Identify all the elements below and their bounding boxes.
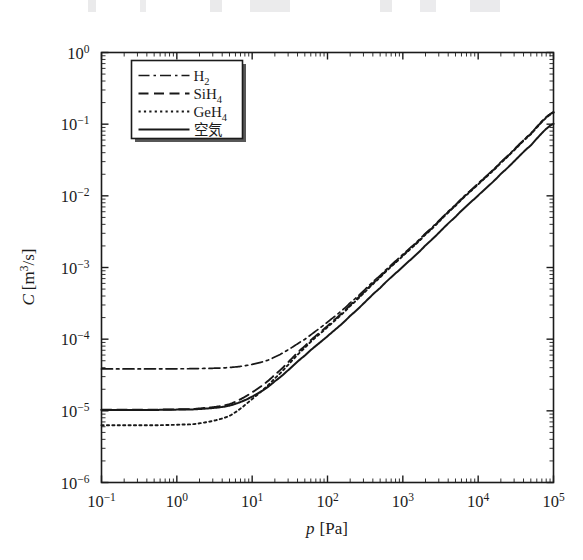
x-axis-title: p[Pa] (305, 519, 348, 538)
tick-label: 105 (542, 491, 565, 511)
tick-label: 10−1 (87, 491, 116, 511)
curve-SiH4 (102, 112, 554, 409)
tick-label: 100 (166, 491, 189, 511)
tick-label: 10−3 (61, 258, 90, 278)
figure-canvas: 10−1100101102103104105 10010−110−210−310… (0, 0, 583, 560)
conductance-vs-pressure-chart: 10−1100101102103104105 10010−110−210−310… (0, 0, 583, 560)
tick-label: 10−1 (61, 114, 90, 134)
tick-label: 10−6 (61, 473, 90, 493)
tick-label: 100 (67, 43, 90, 63)
legend-box (132, 61, 243, 139)
tick-label: 103 (392, 491, 415, 511)
y-axis-title: C[m3/s] (18, 249, 38, 306)
x-axis-tick-labels: 10−1100101102103104105 (87, 491, 565, 511)
curve-air (102, 124, 554, 410)
legend: H2SiH4GeH4空気 (132, 61, 243, 139)
legend-label-空気: 空気 (194, 122, 222, 138)
tick-label: 10−4 (61, 329, 90, 349)
tick-label: 104 (467, 491, 490, 511)
curve-H2 (102, 112, 554, 369)
tick-label: 102 (316, 491, 339, 511)
curve-GeH4 (102, 113, 554, 426)
tick-label: 10−5 (61, 401, 90, 421)
page-bleed-artifact (0, 0, 583, 12)
tick-label: 10−2 (61, 186, 90, 206)
data-curves (102, 112, 554, 425)
tick-label: 101 (241, 491, 264, 511)
y-axis-tick-labels: 10010−110−210−310−410−510−6 (61, 43, 90, 493)
